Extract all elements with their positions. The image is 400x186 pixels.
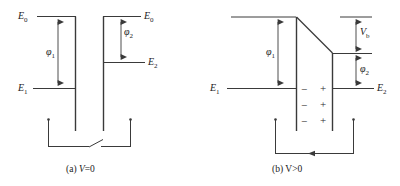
panel-b-left-lead-terminal: [274, 118, 277, 121]
diagram-canvas: [0, 0, 400, 186]
panel-b-charge-negative-1: −: [301, 84, 307, 95]
figure-energy-band-diagram: E0 E1 φ1 E0 E2 φ2 (a) V=0 E1 φ1 Vb φ2 E2…: [0, 0, 400, 186]
panel-a-left-lead-terminal: [47, 118, 50, 121]
panel-a-caption: (a) V=0: [66, 165, 95, 175]
panel-b-charge-positive-1: +: [320, 83, 326, 94]
panel-b-caption: (b) V>0: [272, 165, 302, 175]
panel-b-right-lead-terminal: [352, 118, 355, 121]
panel-a-label-phi1: φ1: [46, 47, 55, 60]
panel-b-label-e1: E1: [210, 83, 220, 96]
panel-a-label-e0-right: E0: [144, 11, 154, 24]
panel-a-right-lead-terminal: [129, 118, 132, 121]
panel-b-charge-negative-2: −: [301, 100, 307, 111]
panel-a-label-phi2: φ2: [124, 27, 133, 40]
panel-b-tilted-barrier-top: [297, 17, 333, 53]
panel-b-charge-negative-3: −: [301, 116, 307, 127]
panel-b-label-phi1: φ1: [266, 47, 275, 60]
panel-a-label-e1: E1: [18, 83, 28, 96]
panel-a-label-e0-left: E0: [18, 11, 28, 24]
panel-b-charge-positive-2: +: [320, 99, 326, 110]
panel-a-open-switch-blade: [89, 140, 103, 148]
panel-a-label-e2: E2: [148, 57, 158, 70]
panel-b-label-phi2: φ2: [360, 64, 369, 77]
panel-b-label-e2: E2: [377, 83, 387, 96]
panel-b-label-vb: Vb: [360, 27, 370, 40]
panel-b-charge-positive-3: +: [320, 115, 326, 126]
